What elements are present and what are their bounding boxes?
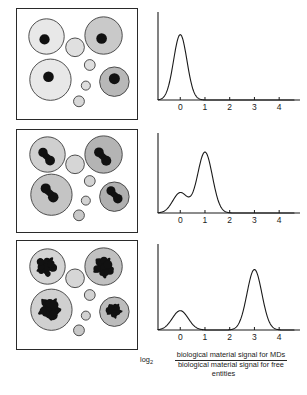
density-plot-2: 01234 <box>150 240 302 350</box>
cell-diagram-panel-2 <box>16 240 138 350</box>
figure-row-1: 01234 <box>0 129 307 233</box>
density-plot-svg-0: 01234 <box>150 8 302 120</box>
x-tick-label: 0 <box>178 102 183 112</box>
density-plot-svg-2: 01234 <box>150 240 302 350</box>
x-tick-label: 4 <box>277 102 282 112</box>
density-curve <box>158 270 294 330</box>
x-tick-label: 1 <box>203 332 208 342</box>
log-base: 2 <box>150 359 153 365</box>
log-label: log2 <box>140 355 155 364</box>
density-curve <box>158 35 294 100</box>
figure-panel-grid: 01234 01234 01234 log2 biological materi… <box>0 0 307 395</box>
cell-diagram-svg-0 <box>17 9 137 119</box>
x-tick-label: 2 <box>227 332 232 342</box>
density-plot-0: 01234 <box>150 8 302 120</box>
caption-fraction: biological material signal for MDs biolo… <box>155 350 307 369</box>
x-tick-label: 3 <box>252 215 257 225</box>
x-tick-label: 4 <box>277 332 282 342</box>
x-tick-label: 2 <box>227 215 232 225</box>
cell-diagram-panel-0 <box>16 8 138 120</box>
density-plot-1: 01234 <box>150 129 302 233</box>
x-tick-label: 3 <box>252 102 257 112</box>
figure-row-2: 01234 <box>0 240 307 350</box>
x-tick-label: 4 <box>277 215 282 225</box>
x-tick-label: 0 <box>178 215 183 225</box>
x-tick-label: 0 <box>178 332 183 342</box>
density-curve <box>158 152 294 213</box>
caption-denominator-line1: biological material signal for free <box>178 359 284 369</box>
axis-caption: log2 biological material signal for MDs … <box>140 350 307 378</box>
x-tick-label: 1 <box>203 102 208 112</box>
figure-row-0: 01234 <box>0 8 307 120</box>
density-plot-svg-1: 01234 <box>150 129 302 233</box>
caption-denominator-line2: entities <box>140 369 307 378</box>
cell-diagram-svg-2 <box>17 241 137 349</box>
cell-diagram-panel-1 <box>16 129 138 233</box>
x-tick-label: 1 <box>203 215 208 225</box>
x-tick-label: 3 <box>252 332 257 342</box>
cell-diagram-svg-1 <box>17 130 137 232</box>
x-tick-label: 2 <box>227 102 232 112</box>
log-prefix: log <box>140 355 150 364</box>
